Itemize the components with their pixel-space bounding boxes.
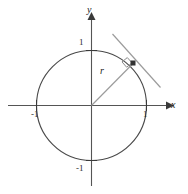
y-tick-label-negative-one: -1 — [76, 164, 84, 173]
x-tick-label-negative-one: -1 — [31, 110, 39, 119]
radius-label: r — [100, 66, 104, 76]
unit-circle-tangent-diagram: x y r 1 -1 1 -1 — [0, 0, 188, 194]
radius-segment — [92, 64, 134, 106]
x-axis-label: x — [171, 100, 175, 110]
y-axis-label: y — [87, 5, 91, 15]
y-tick-label-positive-one: 1 — [79, 38, 84, 47]
x-tick-label-positive-one: 1 — [143, 110, 148, 119]
diagram-canvas — [0, 0, 188, 194]
point-p-marker — [131, 61, 136, 66]
tangent-line — [113, 34, 161, 88]
